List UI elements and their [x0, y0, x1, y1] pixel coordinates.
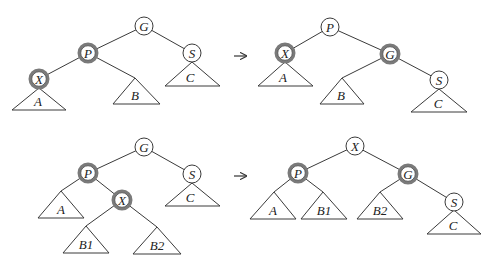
- double-rotation-after: X P G S A B1 B2 C: [250, 137, 481, 234]
- label-X: X: [34, 72, 44, 87]
- label-P: P: [83, 46, 92, 61]
- single-rotation-after: P X G S A B C: [258, 18, 467, 112]
- label-G: G: [403, 167, 413, 182]
- label-C: C: [186, 190, 195, 205]
- rotation-diagram: G P S X A B C P X G S A B C: [0, 0, 495, 267]
- label-A: A: [33, 94, 42, 109]
- label-B: B: [337, 88, 345, 103]
- label-X: X: [117, 193, 127, 208]
- double-rotation-before: G P S X A B1 B2 C: [38, 138, 220, 254]
- label-S: S: [189, 46, 196, 61]
- label-X: X: [280, 46, 290, 61]
- label-B2: B2: [150, 238, 165, 253]
- label-S: S: [189, 167, 196, 182]
- label-B2: B2: [373, 203, 388, 218]
- single-rotation-before: G P S X A B C: [12, 17, 220, 110]
- label-P: P: [83, 166, 92, 181]
- label-A: A: [278, 70, 287, 85]
- label-C: C: [449, 218, 458, 233]
- label-B: B: [131, 88, 139, 103]
- label-S: S: [436, 73, 443, 88]
- label-B1: B1: [317, 203, 331, 218]
- label-C: C: [434, 96, 443, 111]
- label-G: G: [139, 140, 149, 155]
- label-S: S: [451, 195, 458, 210]
- label-A: A: [268, 203, 277, 218]
- label-P: P: [293, 166, 302, 181]
- label-G: G: [385, 47, 395, 62]
- label-C: C: [186, 70, 195, 85]
- label-G: G: [139, 19, 149, 34]
- label-P: P: [325, 20, 334, 35]
- label-X: X: [350, 139, 360, 154]
- label-B1: B1: [79, 237, 93, 252]
- label-A: A: [56, 202, 65, 217]
